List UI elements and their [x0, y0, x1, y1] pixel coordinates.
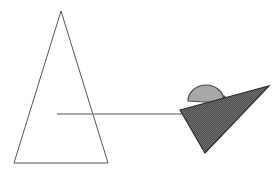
canvas-background	[0, 0, 280, 172]
figure-canvas: Geometric shapes line drawing	[0, 0, 280, 172]
figure-svg	[0, 0, 280, 172]
